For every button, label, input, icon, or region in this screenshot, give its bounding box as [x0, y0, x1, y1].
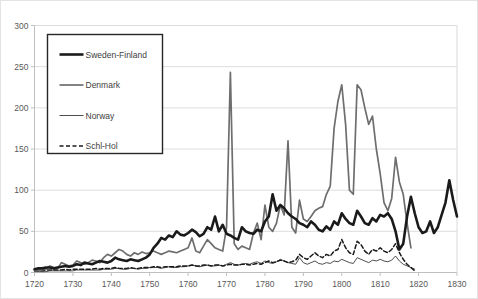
chart-frame: 050100150200250300 172017301740175017601…: [0, 0, 478, 299]
y-tick-label-0: 0: [24, 268, 29, 278]
series-line-sweden-finland: [35, 180, 458, 269]
x-tick-label-1760: 1760: [179, 279, 198, 289]
x-tick-label-1750: 1750: [140, 279, 159, 289]
y-tick-label-100: 100: [14, 185, 28, 195]
x-tick-label-1730: 1730: [63, 279, 82, 289]
y-axis-tick-labels: 050100150200250300: [14, 21, 34, 278]
line-chart: 050100150200250300 172017301740175017601…: [1, 1, 478, 299]
x-tick-label-1740: 1740: [102, 279, 121, 289]
y-tick-label-50: 50: [19, 226, 29, 236]
x-tick-label-1820: 1820: [409, 279, 428, 289]
chart-legend: Sweden-FinlandDenmarkNorwaySchl-Hol: [48, 35, 163, 154]
x-axis-tick-labels: 1720173017401750176017701780179018001810…: [25, 273, 467, 289]
x-tick-label-1720: 1720: [25, 279, 44, 289]
x-tick-label-1780: 1780: [255, 279, 274, 289]
legend-label-denmark: Denmark: [86, 80, 121, 90]
x-tick-label-1830: 1830: [448, 279, 467, 289]
legend-label-norway: Norway: [86, 111, 116, 121]
x-tick-label-1770: 1770: [217, 279, 236, 289]
legend-label-schl-hol: Schl-Hol: [86, 141, 118, 151]
x-tick-label-1810: 1810: [371, 279, 390, 289]
y-tick-label-150: 150: [14, 144, 28, 154]
y-tick-label-300: 300: [14, 21, 28, 31]
x-tick-label-1800: 1800: [332, 279, 351, 289]
y-tick-label-200: 200: [14, 103, 28, 113]
legend-label-sweden-finland: Sweden-Finland: [86, 50, 148, 60]
y-tick-label-250: 250: [14, 62, 28, 72]
x-tick-label-1790: 1790: [294, 279, 313, 289]
